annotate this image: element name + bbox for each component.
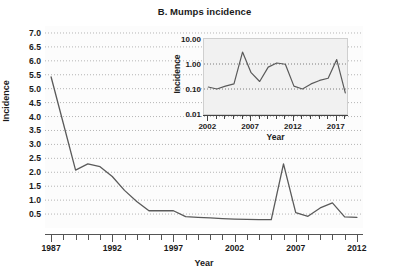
inset-x-tick (267, 115, 268, 119)
main-x-tick (173, 234, 174, 242)
main-y-tick-label: 0.5 (7, 209, 41, 219)
main-x-tick (161, 234, 162, 240)
main-x-tick (198, 234, 199, 240)
main-x-tick-label: 1997 (164, 243, 183, 253)
inset-x-tick-label: 2002 (198, 122, 216, 131)
inset-x-tick (301, 115, 302, 119)
main-x-axis-title: Year (45, 258, 363, 268)
main-x-tick (259, 234, 260, 240)
inset-x-tick (216, 115, 217, 119)
inset-x-tick (310, 115, 311, 119)
main-y-tick-label: 2.5 (7, 153, 41, 163)
main-y-tick-label: 7.0 (7, 28, 41, 38)
main-y-tick-label: 1.5 (7, 181, 41, 191)
inset-plot-area (203, 38, 348, 115)
inset-x-tick (233, 115, 234, 119)
main-x-tick (125, 234, 126, 240)
main-x-tick (345, 234, 346, 240)
inset-x-tick (224, 115, 225, 119)
main-y-tick-label: 2.0 (7, 167, 41, 177)
main-y-tick-label: 3.0 (7, 139, 41, 149)
main-x-tick (332, 234, 333, 240)
main-x-tick (357, 234, 358, 242)
inset-x-tick-label: 2012 (284, 122, 302, 131)
main-x-tick (284, 234, 285, 240)
main-y-tick-label: 5.5 (7, 70, 41, 80)
main-y-tick-label: 4.0 (7, 112, 41, 122)
inset-x-tick (207, 115, 208, 121)
main-x-tick-label: 2007 (286, 243, 305, 253)
main-y-tick-label: 5.0 (7, 84, 41, 94)
main-y-axis-title: Incidence (1, 41, 11, 161)
inset-x-tick (336, 115, 337, 121)
main-x-tick (308, 234, 309, 240)
inset-y-axis-title: Incidence (172, 34, 182, 114)
main-x-tick (210, 234, 211, 240)
main-x-tick (112, 234, 113, 242)
main-x-tick (63, 234, 64, 240)
inset-x-tick (293, 115, 294, 121)
inset-x-tick (344, 115, 345, 119)
main-x-tick (137, 234, 138, 240)
main-x-tick (100, 234, 101, 240)
main-x-tick (186, 234, 187, 240)
main-x-tick-label: 1987 (42, 243, 61, 253)
main-x-tick (247, 234, 248, 240)
inset-x-tick (242, 115, 243, 119)
inset-x-tick (319, 115, 320, 119)
main-y-tick-label: 4.5 (7, 98, 41, 108)
inset-x-tick-label: 2007 (241, 122, 259, 131)
main-x-tick (296, 234, 297, 242)
figure-panel-b: B. Mumps incidence 0.51.01.52.02.53.03.5… (0, 0, 409, 280)
main-x-tick (149, 234, 150, 240)
inset-data-line (204, 39, 347, 114)
main-y-tick-label: 3.5 (7, 125, 41, 135)
main-x-tick (88, 234, 89, 240)
main-y-tick-label: 1.0 (7, 195, 41, 205)
inset-chart: 0.010.101.0010.00 2002200720122017 Year … (155, 36, 360, 144)
figure-title: B. Mumps incidence (0, 6, 409, 17)
main-x-tick-label: 2002 (225, 243, 244, 253)
inset-x-axis-title: Year (203, 132, 348, 142)
main-x-tick (76, 234, 77, 240)
main-x-tick (51, 234, 52, 242)
main-y-tick-label: 6.5 (7, 42, 41, 52)
main-x-axis-line (45, 234, 363, 235)
inset-x-tick (284, 115, 285, 119)
main-y-tick-label: 6.0 (7, 56, 41, 66)
inset-x-tick (276, 115, 277, 119)
main-x-tick (271, 234, 272, 240)
inset-x-tick-label: 2017 (327, 122, 345, 131)
inset-x-tick (250, 115, 251, 121)
inset-x-tick (327, 115, 328, 119)
main-x-tick-label: 2012 (347, 243, 366, 253)
inset-x-tick (259, 115, 260, 119)
main-x-tick (235, 234, 236, 242)
main-x-tick (222, 234, 223, 240)
main-x-tick (320, 234, 321, 240)
main-x-tick-label: 1992 (103, 243, 122, 253)
